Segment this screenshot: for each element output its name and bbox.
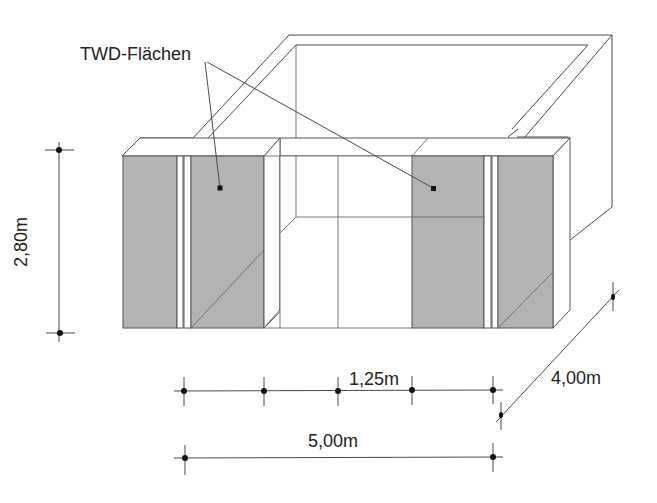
module-width-label: 1,25m [349, 369, 399, 389]
window-slot-left [177, 156, 183, 328]
center-opening [264, 138, 412, 328]
twd-label: TWD-Flächen [80, 44, 191, 64]
right-wall-block [412, 156, 553, 328]
twd-marker-left [218, 186, 223, 191]
depth-label: 4,00m [551, 368, 601, 388]
height-label: 2,80m [11, 217, 31, 267]
window-slot-left-2 [184, 156, 191, 328]
isometric-room-diagram: TWD-Flächen 2,80m 1,25m 5,00m [0, 0, 657, 503]
module-dimension: 1,25m [174, 369, 503, 406]
left-wall-block [123, 156, 264, 328]
total-width-label: 5,00m [308, 431, 358, 451]
twd-panel-left [191, 156, 264, 328]
twd-panel-right-outer [498, 156, 553, 328]
height-dimension: 2,80m [11, 142, 75, 342]
twd-marker-right [431, 186, 436, 191]
total-width-dimension: 5,00m [174, 431, 503, 475]
right-side-face [553, 138, 570, 328]
window-slot-right-2 [492, 156, 498, 328]
window-slot-right [484, 156, 491, 328]
front-wall-top [122, 138, 570, 156]
twd-panel-left-outer [123, 156, 177, 328]
